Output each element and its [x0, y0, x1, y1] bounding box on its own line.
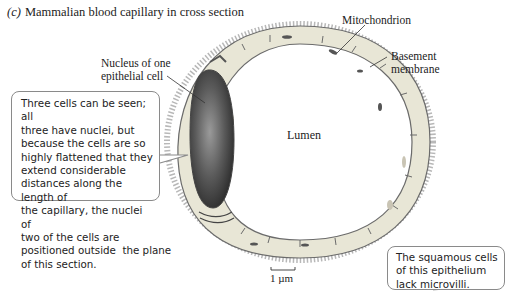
callout-line: The squamous cells — [396, 251, 498, 264]
label-nucleus: Nucleus of one epithelial cell — [101, 57, 171, 83]
callout-squamous-cells: The squamous cells of this epithelium la… — [387, 246, 505, 290]
label-nucleus-line2: epithelial cell — [101, 70, 171, 83]
callout-line: of this section. — [21, 258, 153, 271]
callout-three-cells: Three cells can be seen; all three have … — [11, 91, 160, 201]
label-mitochondrion: Mitochondrion — [342, 14, 411, 27]
callout-line: highly flattened that they — [21, 151, 153, 164]
callout-line: three have nuclei, but — [21, 124, 153, 137]
figure-title: (c)Mammalian blood capillary in cross se… — [7, 5, 244, 20]
scale-bar — [271, 267, 295, 270]
callout-line: the capillary, the nuclei of — [21, 204, 153, 231]
label-basement-line2: membrane — [391, 63, 440, 76]
figure-title-text: Mammalian blood capillary in cross secti… — [25, 5, 244, 19]
label-lumen: Lumen — [287, 128, 321, 143]
callout-line: positioned outside the plane — [21, 244, 153, 257]
callout-line: because the cells are so — [21, 137, 153, 150]
label-basement-line1: Basement — [391, 50, 440, 63]
callout-line: Three cells can be seen; all — [21, 97, 153, 124]
panel-letter: (c) — [7, 5, 21, 19]
callout-line: lack microvilli. — [396, 278, 498, 291]
label-basement-membrane: Basement membrane — [391, 50, 440, 76]
callout-line: distances along the length of — [21, 177, 153, 204]
callout-line: extend considerable — [21, 164, 153, 177]
scale-bar-label: 1 µm — [270, 272, 293, 284]
callout-line: two of the cells are — [21, 231, 153, 244]
label-nucleus-line1: Nucleus of one — [101, 57, 171, 70]
callout-line: of this epithelium — [396, 264, 498, 277]
